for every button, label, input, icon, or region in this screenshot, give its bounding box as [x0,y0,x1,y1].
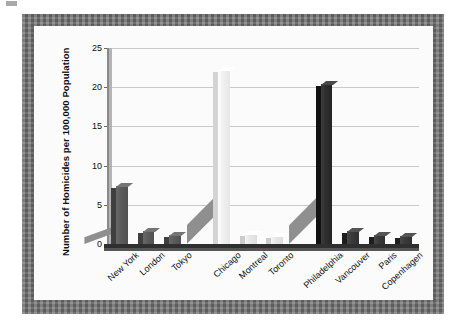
bar-top-face [245,231,262,235]
bar-front-face [218,70,230,244]
y-tick-label-20: 20 [92,82,102,92]
bar-front-face [169,235,181,244]
bar-top-face [347,228,364,232]
bar-copenhagen[interactable] [400,236,412,244]
bar-front-face [374,235,386,244]
bar-new-york[interactable] [116,186,128,244]
bar-series [108,48,419,244]
bar-top-face [218,67,235,71]
bar-toronto[interactable] [271,236,283,244]
x-label-new-york: New York [105,250,140,283]
y-tick-label-15: 15 [92,121,102,131]
x-label-tokyo: Tokyo [169,250,193,273]
bar-front-face [271,236,283,244]
bar-front-face [400,236,412,244]
bar-front-face [143,231,155,244]
bar-philadelphia[interactable] [321,84,333,244]
bar-top-face [271,233,288,237]
y-tick-label-5: 5 [97,200,102,210]
plot-area: 0510152025 [108,48,419,244]
figure-frame: Number of Homicides per 100,000 Populati… [22,14,444,314]
bar-top-face [400,233,417,237]
y-tick-label-10: 10 [92,161,102,171]
scan-artifact [6,1,17,6]
x-label-paris: Paris [376,250,398,271]
y-axis-title: Number of Homicides per 100,000 Populati… [60,70,71,256]
bar-front-face [116,186,128,244]
bar-front-face [321,84,333,244]
y-tick-label-25: 25 [92,43,102,53]
bar-front-face [245,234,257,244]
x-label-london: London [138,250,167,278]
bar-top-face [374,232,391,236]
y-tick-label-0: 0 [97,239,102,249]
bar-paris[interactable] [374,235,386,244]
x-label-montreal: Montreal [237,250,270,281]
bar-london[interactable] [143,231,155,244]
x-label-toronto: Toronto [267,250,296,278]
x-axis-labels: New YorkLondonTokyoChicagoMontrealToront… [108,248,419,312]
bar-vancouver[interactable] [347,231,359,244]
bar-top-face [143,228,160,232]
bar-top-face [169,232,186,236]
bar-tokyo[interactable] [169,235,181,244]
bar-front-face [347,231,359,244]
chart-card: Number of Homicides per 100,000 Populati… [34,26,433,300]
bar-montreal[interactable] [245,234,257,244]
bar-top-face [321,81,338,85]
bar-top-face [116,183,133,187]
bar-chicago[interactable] [218,70,230,244]
